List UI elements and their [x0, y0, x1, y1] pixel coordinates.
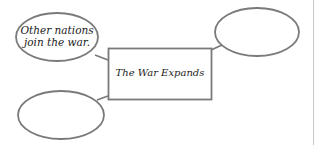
web-diagram: Other nations join the war. The War Expa…	[0, 0, 317, 145]
connector-top-right	[211, 45, 222, 50]
node-top-left-line2: join the war.	[16, 36, 98, 48]
ellipse-top-right[interactable]	[215, 8, 299, 56]
node-top-left-line1: Other nations	[16, 24, 98, 36]
ellipse-bottom-left[interactable]	[18, 91, 104, 139]
node-top-left-text: Other nations join the war.	[16, 24, 98, 48]
connector-top-left	[95, 55, 108, 60]
connector-bottom-left	[97, 96, 108, 100]
center-box-label: The War Expands	[109, 67, 211, 79]
